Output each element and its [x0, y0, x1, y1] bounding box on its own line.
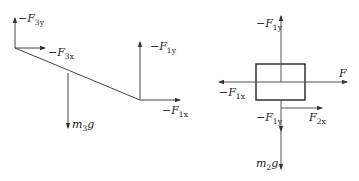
free-body-diagrams: −F3y −F3x m3g −F1y −F1x −F1y F −F1x −F1y…	[0, 0, 359, 181]
label-f3x: −F3x	[48, 46, 75, 61]
label-f1y-top: −F1y	[256, 17, 283, 32]
beam	[15, 48, 140, 100]
label-f1x: −F1x	[162, 104, 189, 119]
label-f1x: −F1x	[219, 86, 246, 101]
label-f1y: −F1y	[150, 40, 177, 55]
label-f2x: F2x	[308, 111, 326, 126]
block-diagram: −F1y F −F1x −F1y F2x m2g	[219, 16, 347, 172]
label-f: F	[338, 67, 347, 80]
label-f1y-bottom: −F1y	[256, 111, 283, 126]
label-f3y: −F3y	[18, 12, 45, 27]
label-m3g: m3g	[72, 118, 94, 133]
beam-diagram: −F3y −F3x m3g −F1y −F1x	[15, 12, 189, 133]
label-m2g: m2g	[256, 157, 278, 172]
